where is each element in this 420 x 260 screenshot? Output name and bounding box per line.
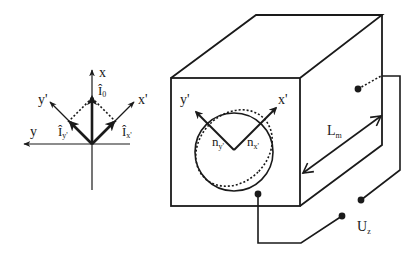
nx-label: nx' bbox=[247, 134, 260, 151]
face-y-prime-label: y' bbox=[180, 92, 190, 107]
iy-label: Îy' bbox=[58, 124, 68, 140]
length-label: Lm bbox=[327, 123, 343, 140]
voltage-label: Uz bbox=[357, 219, 371, 236]
ix-vector-arrow bbox=[92, 122, 114, 144]
x-axis-label: x bbox=[99, 65, 106, 80]
cube-top-face bbox=[171, 15, 382, 78]
cube-right-face bbox=[300, 15, 382, 206]
y-prime-axis-label: y' bbox=[38, 92, 48, 107]
polarization-vector-diagram: x y y' x' Î0 Îy' Îx' bbox=[24, 65, 148, 190]
face-x-prime-label: x' bbox=[278, 92, 288, 107]
electro-optic-crystal-diagram bbox=[171, 15, 400, 243]
y-axis-label: y bbox=[30, 124, 37, 139]
i0-label: Î0 bbox=[98, 83, 106, 99]
projection-dotted-line-left bbox=[68, 98, 92, 122]
iy-vector-arrow bbox=[70, 122, 92, 144]
length-double-arrow bbox=[303, 116, 381, 173]
x-prime-axis-label: x' bbox=[138, 92, 148, 107]
ix-label: Îx' bbox=[122, 124, 132, 140]
birefringent-ellipse bbox=[180, 94, 287, 201]
projection-dotted-line-right bbox=[92, 98, 116, 122]
back-electrode-dotted-wire bbox=[358, 76, 381, 89]
ny-label: ny' bbox=[212, 134, 225, 151]
back-electrode-wire bbox=[361, 76, 400, 200]
diagram-canvas: x y y' x' Î0 Îy' Îx' bbox=[0, 0, 420, 260]
